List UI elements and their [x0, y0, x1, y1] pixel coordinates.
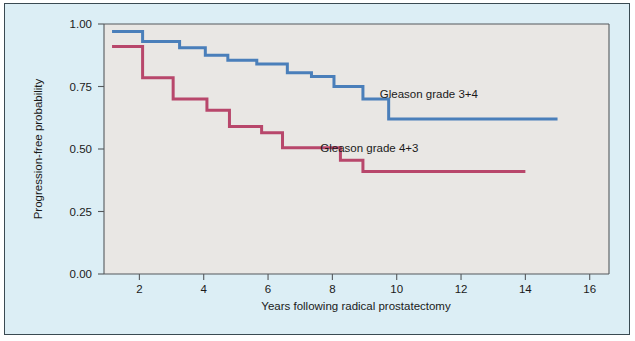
x-tick-label: 12 — [455, 283, 468, 295]
y-tick-label: 0.50 — [70, 143, 92, 155]
y-tick-label: 0.75 — [70, 81, 92, 93]
series-label: Gleason grade 4+3 — [320, 142, 418, 154]
x-tick-label: 16 — [583, 283, 596, 295]
x-tick-label: 8 — [329, 283, 335, 295]
y-axis-title: Progression-free probability — [32, 78, 44, 219]
x-tick-label: 14 — [519, 283, 532, 295]
x-axis-title: Years following radical prostatectomy — [261, 300, 451, 312]
y-axis-ticks: 0.000.250.500.751.00 — [70, 18, 104, 280]
series-label: Gleason grade 3+4 — [380, 88, 479, 100]
y-tick-label: 1.00 — [70, 18, 92, 30]
x-tick-label: 2 — [136, 283, 142, 295]
x-axis-ticks: 246810121416 — [136, 274, 596, 295]
figure-container: 0.000.250.500.751.00 246810121416 Gleaso… — [0, 0, 635, 341]
kaplan-meier-chart: 0.000.250.500.751.00 246810121416 Gleaso… — [0, 0, 635, 341]
y-tick-label: 0.25 — [70, 206, 92, 218]
x-tick-label: 10 — [390, 283, 403, 295]
x-tick-label: 4 — [201, 283, 208, 295]
x-tick-label: 6 — [265, 283, 271, 295]
y-tick-label: 0.00 — [70, 268, 92, 280]
